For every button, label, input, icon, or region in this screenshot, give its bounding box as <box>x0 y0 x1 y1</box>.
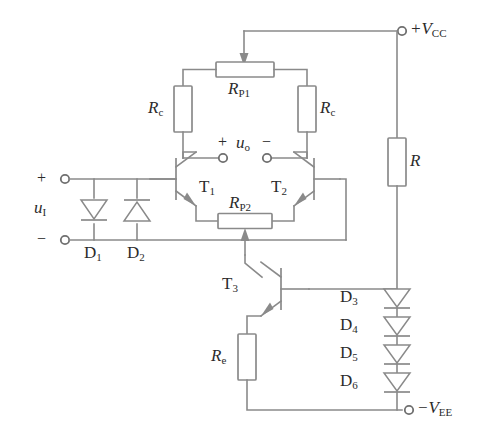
d1-diode[interactable] <box>81 200 107 220</box>
rc-left-resistor[interactable] <box>174 86 192 132</box>
output-plus-sign: + <box>218 133 227 151</box>
rp1-right-lead <box>274 70 307 87</box>
d4-diode[interactable] <box>384 317 410 336</box>
rp1-label: RP1 <box>228 80 250 97</box>
input-minus-terminal[interactable] <box>61 236 69 244</box>
d4-label: D4 <box>340 316 358 333</box>
t2-emitter-wire <box>272 206 294 221</box>
d2-label: D2 <box>127 244 145 261</box>
t3-collector-wire <box>245 255 262 277</box>
d3-label: D3 <box>340 288 358 305</box>
d6-diode[interactable] <box>384 373 410 392</box>
d2-diode[interactable] <box>124 200 150 221</box>
circuit-schematic-canvas <box>0 0 486 448</box>
vee-label: −VEE <box>417 399 452 416</box>
re-resistor[interactable] <box>238 334 256 380</box>
input-source-label: uI <box>34 199 46 216</box>
input-plus-terminal[interactable] <box>61 175 69 183</box>
t3-label: T3 <box>222 275 238 292</box>
output-plus-terminal[interactable] <box>219 154 227 162</box>
output-minus-terminal[interactable] <box>263 154 271 162</box>
rp1-left-lead <box>183 70 216 87</box>
t1-emitter-wire <box>196 206 218 221</box>
circuit-diagram: +VCC RP1 Rc Rc R + uo − + − uI D1 D2 T1 … <box>0 0 486 448</box>
rp1-wiper-wire <box>240 31 249 66</box>
t2-label: T2 <box>271 178 287 195</box>
output-label: uo <box>236 134 250 151</box>
t1-label: T1 <box>199 178 215 195</box>
rc-right-resistor[interactable] <box>298 86 316 132</box>
t3-transistor[interactable] <box>261 262 309 316</box>
output-minus-sign: − <box>262 133 271 151</box>
rp2-label: RP2 <box>229 194 251 211</box>
vcc-label: +VCC <box>410 20 447 37</box>
input-minus-sign: − <box>37 230 46 248</box>
rp2-wiper-wire <box>241 228 250 255</box>
d6-label: D6 <box>340 372 358 389</box>
d5-diode[interactable] <box>384 345 410 364</box>
r-bias-label: R <box>410 152 420 169</box>
d5-label: D5 <box>340 344 358 361</box>
rc-left-label: Rc <box>148 99 163 116</box>
t3-emitter-wire <box>247 316 261 334</box>
rc-right-label: Rc <box>320 99 335 116</box>
t2-transistor[interactable] <box>294 152 340 206</box>
rp2-potentiometer[interactable] <box>218 214 272 229</box>
vee-terminal[interactable] <box>405 406 413 414</box>
vcc-terminal[interactable] <box>398 27 406 35</box>
t2-base-wrap-wire <box>340 179 346 240</box>
r-resistor[interactable] <box>388 138 406 186</box>
re-label: Re <box>211 347 226 364</box>
input-plus-sign: + <box>37 169 46 187</box>
d3-diode[interactable] <box>384 289 410 308</box>
re-bottom-wire <box>247 380 402 410</box>
rp1-potentiometer[interactable] <box>216 62 274 77</box>
d1-label: D1 <box>84 244 102 261</box>
